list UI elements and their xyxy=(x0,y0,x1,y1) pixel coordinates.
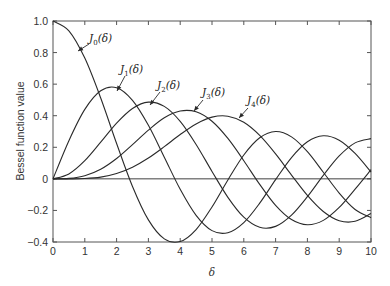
plot-border xyxy=(53,21,371,242)
x-tick-label: 7 xyxy=(273,245,279,257)
plot-frame xyxy=(53,21,371,242)
y-tick-label: 0 xyxy=(42,173,48,185)
x-tick-label: 2 xyxy=(114,245,120,257)
y-tick-labels: 1.00.80.60.40.20−0.2−0.4 xyxy=(27,15,48,248)
bessel-curves xyxy=(53,21,371,242)
x-tick-label: 5 xyxy=(209,245,215,257)
y-tick-label: −0.4 xyxy=(27,236,48,248)
y-tick-label: 0.2 xyxy=(33,141,48,153)
y-tick-label: 1.0 xyxy=(33,15,48,27)
axis-ticks xyxy=(53,21,371,242)
x-tick-label: 0 xyxy=(50,245,56,257)
x-tick-label: 8 xyxy=(304,245,310,257)
label-j1: J1(δ) xyxy=(118,63,143,78)
y-axis-title: Bessel function value xyxy=(14,81,26,180)
x-tick-label: 4 xyxy=(177,245,183,257)
x-axis-title: δ xyxy=(209,266,215,278)
label-j3: J3(δ) xyxy=(200,86,225,101)
y-tick-label: 0.6 xyxy=(33,78,48,90)
label-j0: J0(δ) xyxy=(87,32,112,47)
x-tick-label: 9 xyxy=(336,245,342,257)
y-tick-label: 0.8 xyxy=(33,47,48,59)
bessel-chart: 1.00.80.60.40.20−0.2−0.4 012345678910 J0… xyxy=(0,0,390,286)
arrowhead-icon xyxy=(150,100,155,105)
y-tick-label: 0.4 xyxy=(33,110,48,122)
x-tick-label: 1 xyxy=(82,245,88,257)
label-j4: J4(δ) xyxy=(245,94,270,109)
label-j2: J2(δ) xyxy=(155,79,180,94)
curve-j0 xyxy=(53,21,371,242)
y-tick-label: −0.2 xyxy=(27,204,48,216)
x-tick-label: 3 xyxy=(145,245,151,257)
x-tick-label: 10 xyxy=(365,245,377,257)
curve-annotations: J0(δ)J1(δ)J2(δ)J3(δ)J4(δ) xyxy=(78,32,270,118)
x-tick-label: 6 xyxy=(241,245,247,257)
x-tick-labels: 012345678910 xyxy=(50,245,377,257)
